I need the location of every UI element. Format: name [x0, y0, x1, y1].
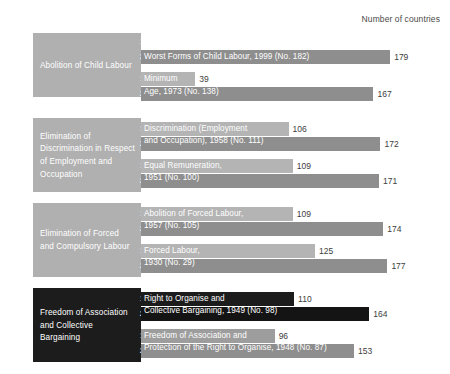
chart-group: Freedom of Association and Collective Ba… [33, 288, 450, 362]
bar-row: 1990106 [33, 122, 450, 136]
bar-2014 [141, 222, 383, 236]
bar-1990 [141, 72, 195, 86]
group-rows: 19901092014174Abolition of Forced Labour… [33, 203, 450, 277]
convention-pair: 19901092014174Abolition of Forced Labour… [33, 207, 450, 237]
group-rows: 19901062014172Discrimination (Employment… [33, 118, 450, 192]
convention-pair: 19901252014177Forced Labour, 1930 (No. 2… [33, 244, 450, 274]
bar-1990 [141, 329, 275, 343]
bar-row: 199096 [33, 329, 450, 343]
bar-year-label: 1990 [133, 35, 158, 49]
group-rows: 19902014179Worst Forms of Child Labour, … [33, 33, 450, 97]
chart-canvas: Number of countries Abolition of Child L… [0, 0, 450, 374]
bar-2014 [141, 259, 387, 273]
bar-value-label: 174 [387, 222, 401, 236]
bar-value-label: 171 [383, 174, 397, 188]
bar-row: 1990110 [33, 292, 450, 306]
axis-caption: Number of countries [362, 14, 440, 24]
bar-2014 [141, 87, 373, 101]
group-rows: 19901102014164Right to Organise and Coll… [33, 288, 450, 362]
bar-value-label: 39 [199, 72, 208, 86]
bar-2014 [141, 137, 380, 151]
chart-group: Abolition of Child Labour19902014179Wors… [33, 33, 450, 97]
bar-1990 [141, 159, 293, 173]
bar-value-label: 179 [394, 50, 408, 64]
bar-row: 2014177 [33, 259, 450, 273]
bar-value-label: 109 [297, 207, 311, 221]
bar-2014 [141, 50, 390, 64]
bar-row: 199039 [33, 72, 450, 86]
chart-group: Elimination of Forced and Compulsory Lab… [33, 203, 450, 277]
convention-pair: 1990392014167Minimum Age, 1973 (No. 138) [33, 72, 450, 102]
bar-value-label: 164 [373, 307, 387, 321]
bar-1990 [141, 207, 293, 221]
bar-2014 [141, 344, 354, 358]
convention-pair: 19901092014171Equal Remuneration, 1951 (… [33, 159, 450, 189]
bar-1990 [141, 244, 315, 258]
bar-value-label: 167 [377, 87, 391, 101]
bar-row: 1990 [33, 35, 450, 49]
bar-row: 2014179 [33, 50, 450, 64]
bar-value-label: 153 [358, 344, 372, 358]
bar-row: 1990109 [33, 159, 450, 173]
bar-row: 1990109 [33, 207, 450, 221]
bar-value-label: 106 [293, 122, 307, 136]
convention-pair: 1990962014153Freedom of Association and … [33, 329, 450, 359]
bar-row: 2014167 [33, 87, 450, 101]
convention-pair: 19901062014172Discrimination (Employment… [33, 122, 450, 152]
bar-row: 2014171 [33, 174, 450, 188]
bar-value-label: 109 [297, 159, 311, 173]
bar-2014 [141, 174, 379, 188]
bar-2014 [141, 307, 369, 321]
bar-value-label: 172 [384, 137, 398, 151]
bar-row: 2014164 [33, 307, 450, 321]
bar-row: 2014153 [33, 344, 450, 358]
bar-value-label: 177 [391, 259, 405, 273]
bar-row: 1990125 [33, 244, 450, 258]
bar-value-label: 110 [298, 292, 312, 306]
convention-pair: 19901102014164Right to Organise and Coll… [33, 292, 450, 322]
convention-pair: 19902014179Worst Forms of Child Labour, … [33, 35, 450, 65]
bar-1990 [141, 292, 294, 306]
bar-value-label: 96 [279, 329, 288, 343]
bar-value-label: 125 [319, 244, 333, 258]
bar-row: 2014172 [33, 137, 450, 151]
bar-1990 [141, 122, 289, 136]
bar-row: 2014174 [33, 222, 450, 236]
chart-group: Elimination of Discrimination in Respect… [33, 118, 450, 192]
